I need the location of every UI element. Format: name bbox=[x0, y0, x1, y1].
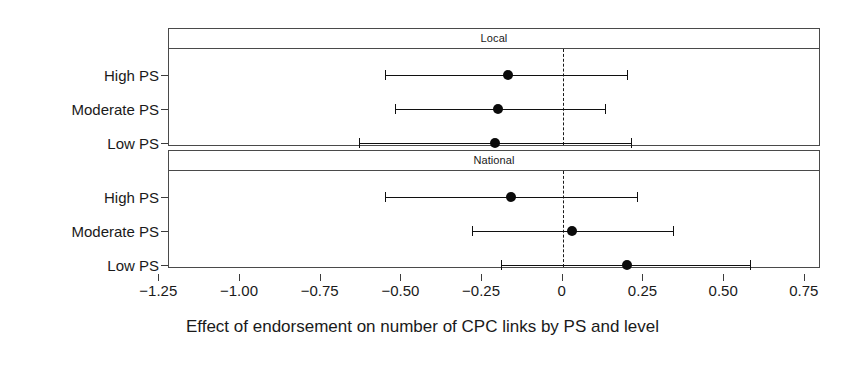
x-axis-title: Effect of endorsement on number of CPC l… bbox=[0, 318, 845, 335]
x-axis-tick-label: 0 bbox=[558, 283, 566, 298]
confidence-interval-cap-upper bbox=[673, 226, 674, 236]
panel-local: Local bbox=[168, 28, 820, 146]
x-axis-tick bbox=[158, 274, 159, 281]
forest-plot-figure: Local National High PSModerate PSLow PSH… bbox=[0, 0, 845, 370]
estimate-point bbox=[503, 70, 513, 80]
x-axis-tick-label: −0.75 bbox=[301, 283, 339, 298]
x-axis-tick bbox=[804, 274, 805, 281]
confidence-interval-cap-upper bbox=[637, 192, 638, 202]
y-axis-label-low-ps: Low PS bbox=[107, 136, 159, 151]
y-axis-label-high-ps: High PS bbox=[104, 190, 159, 205]
x-axis-tick-label: −1.00 bbox=[220, 283, 258, 298]
confidence-interval-cap-lower bbox=[385, 70, 386, 80]
y-axis-tick bbox=[161, 143, 168, 144]
estimate-point bbox=[490, 138, 500, 148]
panel-strip-label-national: National bbox=[473, 155, 514, 166]
y-axis-tick bbox=[161, 75, 168, 76]
x-axis-tick bbox=[723, 274, 724, 281]
confidence-interval-cap-upper bbox=[631, 138, 632, 148]
confidence-interval-cap-lower bbox=[385, 192, 386, 202]
x-axis-tick bbox=[400, 274, 401, 281]
zero-reference-line-national bbox=[563, 171, 564, 267]
panel-strip-local: Local bbox=[169, 29, 819, 49]
x-axis-tick-label: 0.75 bbox=[789, 283, 818, 298]
panel-strip-label-local: Local bbox=[481, 33, 508, 44]
confidence-interval-cap-upper bbox=[750, 260, 751, 270]
x-axis-tick-label: 0.25 bbox=[628, 283, 657, 298]
confidence-interval-cap-upper bbox=[605, 104, 606, 114]
y-axis-tick bbox=[161, 231, 168, 232]
confidence-interval-cap-lower bbox=[501, 260, 502, 270]
y-axis-label-moderate-ps: Moderate PS bbox=[71, 102, 159, 117]
confidence-interval-cap-lower bbox=[395, 104, 396, 114]
x-axis-tick bbox=[481, 274, 482, 281]
estimate-point bbox=[506, 192, 516, 202]
x-axis-tick-label: −1.25 bbox=[139, 283, 177, 298]
y-axis-tick bbox=[161, 265, 168, 266]
x-axis-tick bbox=[642, 274, 643, 281]
x-axis-tick bbox=[562, 274, 563, 281]
x-axis-tick bbox=[320, 274, 321, 281]
estimate-point bbox=[622, 260, 632, 270]
confidence-interval-cap-upper bbox=[627, 70, 628, 80]
y-axis-tick bbox=[161, 109, 168, 110]
estimate-point bbox=[567, 226, 577, 236]
y-axis-label-high-ps: High PS bbox=[104, 68, 159, 83]
zero-reference-line-local bbox=[563, 49, 564, 145]
panel-strip-national: National bbox=[169, 151, 819, 171]
plot-area-national bbox=[169, 171, 819, 267]
x-axis-tick bbox=[239, 274, 240, 281]
y-axis-label-moderate-ps: Moderate PS bbox=[71, 224, 159, 239]
x-axis-tick-label: 0.50 bbox=[709, 283, 738, 298]
panel-national: National bbox=[168, 150, 820, 268]
plot-area-local bbox=[169, 49, 819, 145]
x-axis-tick-label: −0.50 bbox=[381, 283, 419, 298]
estimate-point bbox=[493, 104, 503, 114]
y-axis-label-low-ps: Low PS bbox=[107, 258, 159, 273]
y-axis-tick bbox=[161, 197, 168, 198]
x-axis-tick-label: −0.25 bbox=[462, 283, 500, 298]
confidence-interval-cap-lower bbox=[472, 226, 473, 236]
confidence-interval-cap-lower bbox=[359, 138, 360, 148]
